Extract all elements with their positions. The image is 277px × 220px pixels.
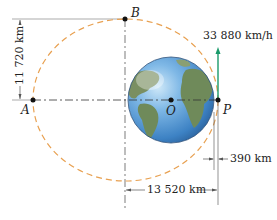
label-p: P (223, 103, 231, 117)
altitude-dimension-label: 390 km (230, 152, 272, 165)
label-b: B (131, 6, 140, 20)
point-o (169, 98, 174, 103)
semi-major-dimension-label: 13 520 km (147, 183, 206, 196)
point-p (216, 98, 221, 103)
point-a (31, 98, 36, 103)
label-a: A (21, 103, 30, 117)
label-o: O (166, 104, 176, 118)
point-b (123, 17, 128, 22)
velocity-label: 33 880 km/h (203, 29, 273, 42)
semi-minor-dimension-label: 11 720 km (13, 25, 26, 86)
